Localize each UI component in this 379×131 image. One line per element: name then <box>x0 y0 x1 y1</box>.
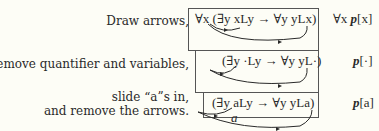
arrow-icon <box>210 68 307 84</box>
binding-arrows <box>0 0 379 131</box>
arrow-icon <box>208 24 307 40</box>
arrow-icon <box>198 110 312 127</box>
arrow-icon <box>198 108 232 114</box>
